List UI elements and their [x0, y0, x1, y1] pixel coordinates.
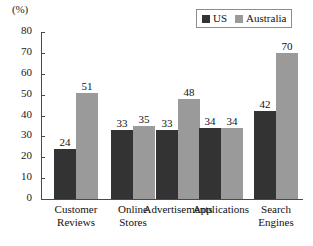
- bar-australia[interactable]: 48: [178, 99, 200, 199]
- bar-group: 2451: [54, 32, 98, 199]
- bar-australia[interactable]: 51: [76, 93, 98, 199]
- x-axis-label-search-engines: SearchEngines: [231, 203, 313, 228]
- y-axis-tick-label: 40: [21, 109, 32, 120]
- bar-group: 4270: [254, 32, 298, 199]
- bar-value-label: 24: [60, 137, 71, 148]
- square-swatch-gray-icon: [235, 15, 243, 23]
- y-axis-tick-label: 80: [21, 25, 32, 36]
- x-axis-line: [41, 199, 303, 200]
- x-axis-label-line: Engines: [231, 216, 313, 229]
- bar-value-label: 70: [282, 41, 293, 52]
- bar-australia[interactable]: 35: [133, 126, 155, 199]
- bar-us[interactable]: 34: [199, 128, 221, 199]
- bar-us[interactable]: 33: [156, 130, 178, 199]
- legend-entry-us: US: [202, 13, 227, 24]
- bar-us[interactable]: 42: [254, 111, 276, 199]
- bar-us[interactable]: 33: [111, 130, 133, 199]
- bar-value-label: 34: [205, 116, 216, 127]
- bar-australia[interactable]: 34: [221, 128, 243, 199]
- bar-value-label: 48: [184, 87, 195, 98]
- bar-group: 3434: [199, 32, 243, 199]
- legend-entry-australia: Australia: [235, 13, 286, 24]
- legend-label-us: US: [213, 13, 227, 24]
- bar-value-label: 51: [82, 81, 93, 92]
- bar-group: 3335: [111, 32, 155, 199]
- bar-australia[interactable]: 70: [276, 53, 298, 199]
- bar-value-label: 33: [162, 118, 173, 129]
- bar-chart: (%) US Australia 01020304050607080 24513…: [0, 0, 313, 246]
- bar-value-label: 42: [260, 99, 271, 110]
- y-axis-unit-label: (%): [12, 3, 28, 15]
- plot-area: 24513335334834344270: [41, 32, 299, 199]
- bar-us[interactable]: 24: [54, 149, 76, 199]
- y-axis-tick-label: 60: [21, 67, 32, 78]
- y-axis-tick-label: 50: [21, 88, 32, 99]
- chart-legend: US Australia: [196, 9, 292, 28]
- y-axis-tick-label: 10: [21, 171, 32, 182]
- x-axis-label-line: Stores: [88, 216, 178, 229]
- bar-value-label: 34: [227, 116, 238, 127]
- legend-label-australia: Australia: [246, 13, 286, 24]
- square-swatch-dark-icon: [202, 15, 210, 23]
- y-axis-tick-label: 70: [21, 46, 32, 57]
- x-axis-label-line: Search: [231, 203, 313, 216]
- y-axis-tick-label: 0: [27, 192, 33, 203]
- bar-value-label: 33: [117, 118, 128, 129]
- bar-group: 3348: [156, 32, 200, 199]
- y-axis-tick-label: 30: [21, 129, 32, 140]
- bar-value-label: 35: [139, 114, 150, 125]
- y-axis-tick-label: 20: [21, 150, 32, 161]
